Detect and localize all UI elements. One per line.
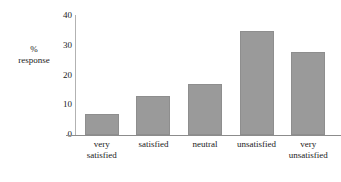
x-axis-category-labels: verysatisfiedsatisfiedneutralunsatisfied… <box>76 139 334 179</box>
x-axis-category-label: veryunsatisfied <box>276 139 340 161</box>
bar <box>85 114 119 135</box>
bar <box>188 84 222 135</box>
bar <box>240 31 274 135</box>
plot-area <box>76 16 334 135</box>
x-axis-category-label-line: unsatisfied <box>276 150 340 161</box>
bar <box>136 96 170 135</box>
x-axis-category-label-line: very <box>276 139 340 150</box>
bar-chart-figure: % response 010203040 verysatisfiedsatisf… <box>0 0 341 182</box>
y-axis-tick-label: 10 <box>46 100 72 109</box>
bar <box>291 52 325 135</box>
bars-layer <box>76 16 334 135</box>
y-axis-tick-labels: 010203040 <box>44 0 72 182</box>
x-axis-category-label-line: satisfied <box>70 150 134 161</box>
y-axis-tick-label: 40 <box>46 11 72 20</box>
x-axis-line <box>66 135 341 136</box>
y-axis-tick-label: 30 <box>46 41 72 50</box>
y-axis-tick-label: 20 <box>46 71 72 80</box>
